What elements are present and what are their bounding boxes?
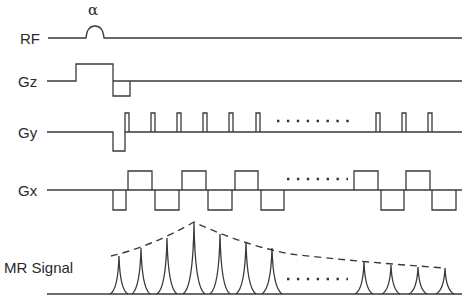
- pulse-sequence-diagram: [0, 0, 473, 302]
- t2-star-decay-envelope: [111, 222, 445, 268]
- rf-waveform: [48, 26, 462, 38]
- mr-signal-waveform: [47, 222, 462, 294]
- gy-waveform: [47, 113, 462, 151]
- gz-waveform: [47, 64, 462, 96]
- gx-waveform: [47, 171, 462, 210]
